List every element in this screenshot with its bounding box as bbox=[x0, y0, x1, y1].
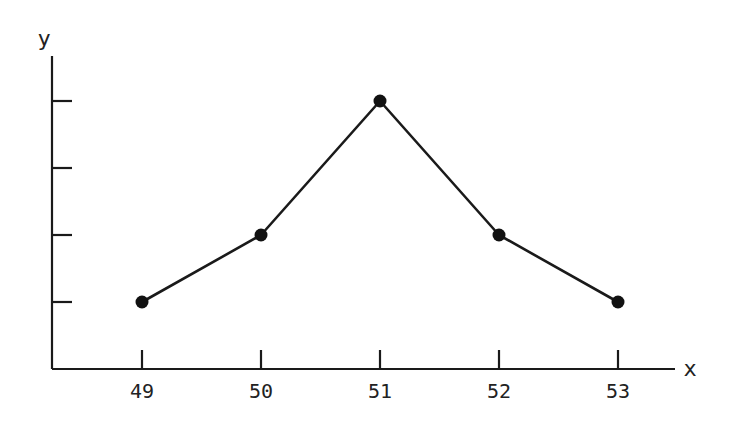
data-point bbox=[374, 95, 387, 108]
x-tick-label: 49 bbox=[130, 379, 154, 403]
x-axis-label: x bbox=[683, 356, 696, 381]
line-chart: y 4950515253 x bbox=[0, 0, 731, 431]
y-axis-label: y bbox=[37, 26, 50, 51]
data-point bbox=[612, 296, 625, 309]
x-tick-label: 50 bbox=[249, 379, 273, 403]
series-line bbox=[142, 101, 618, 302]
x-tick-label: 51 bbox=[368, 379, 392, 403]
x-tick-label: 53 bbox=[606, 379, 630, 403]
data-series bbox=[136, 95, 625, 309]
x-tick-label: 52 bbox=[487, 379, 511, 403]
data-point bbox=[493, 229, 506, 242]
data-point bbox=[255, 229, 268, 242]
y-axis: y bbox=[37, 26, 72, 369]
x-axis: 4950515253 x bbox=[52, 350, 697, 403]
data-point bbox=[136, 296, 149, 309]
